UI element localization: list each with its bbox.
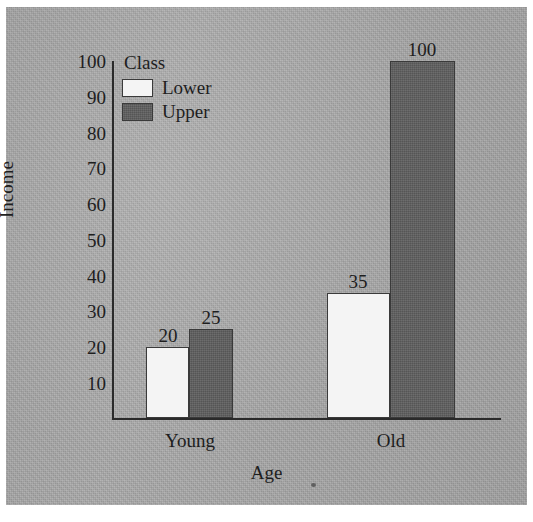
bar-value-old-lower: 35 — [349, 271, 368, 293]
y-tick-label: 80 — [62, 124, 106, 143]
bar-value-old-upper: 100 — [408, 39, 437, 61]
x-category-label-young: Young — [165, 430, 215, 452]
legend-label-upper: Upper — [162, 102, 209, 121]
bar-value-young-upper: 25 — [202, 307, 221, 329]
x-axis-title: Age — [0, 462, 533, 484]
bar-young-upper[interactable] — [189, 329, 233, 418]
chart-screenshot: 100 90 80 70 60 50 40 30 20 10 Income — [0, 0, 533, 522]
legend-title: Class — [124, 53, 212, 72]
legend-swatch-lower-icon — [122, 79, 153, 97]
y-tick-label: 10 — [62, 374, 106, 393]
y-tick-label: 20 — [62, 338, 106, 357]
bar-young-lower[interactable] — [146, 347, 189, 418]
legend-swatch-upper-icon — [122, 103, 153, 121]
y-tick-label: 70 — [62, 159, 106, 178]
bar-chart-plot: 100 90 80 70 60 50 40 30 20 10 Income — [0, 0, 533, 522]
legend-item-upper[interactable]: Upper — [122, 102, 212, 121]
bar-old-lower[interactable] — [327, 293, 390, 418]
scan-artifact-speck — [311, 483, 316, 487]
y-tick-label: 30 — [62, 302, 106, 321]
legend-item-lower[interactable]: Lower — [122, 78, 212, 97]
bar-value-young-lower: 20 — [159, 325, 178, 347]
y-tick-label: 60 — [62, 195, 106, 214]
legend-label-lower: Lower — [162, 78, 212, 97]
y-tick-label: 100 — [62, 52, 106, 71]
y-axis-title: Income — [0, 161, 18, 218]
bar-old-upper[interactable] — [390, 61, 455, 418]
y-axis-line — [112, 61, 114, 420]
legend: Class Lower Upper — [122, 53, 212, 126]
y-tick-label: 50 — [62, 231, 106, 250]
x-category-label-old: Old — [377, 430, 406, 452]
x-axis-line — [112, 418, 501, 420]
y-tick-label: 90 — [62, 88, 106, 107]
y-tick-label: 40 — [62, 267, 106, 286]
